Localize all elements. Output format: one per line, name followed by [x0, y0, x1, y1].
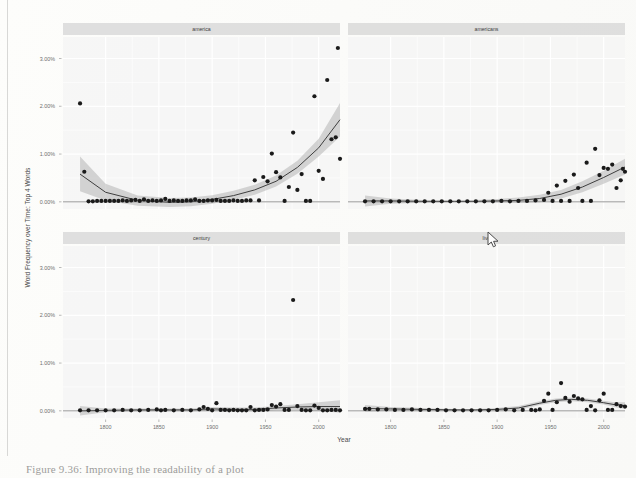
data-point	[104, 199, 108, 203]
data-point	[206, 407, 210, 411]
data-point	[261, 175, 265, 179]
data-point	[300, 172, 304, 176]
data-point	[521, 408, 525, 412]
data-point	[563, 179, 567, 183]
x-tick-label: 1850	[438, 424, 450, 430]
data-point	[219, 408, 223, 412]
data-point	[261, 408, 265, 412]
data-point	[606, 408, 610, 412]
data-point	[163, 197, 167, 201]
data-point	[593, 147, 597, 151]
data-point	[585, 161, 589, 165]
data-point	[623, 404, 627, 408]
y-tick-label: 0.00%	[40, 408, 55, 414]
data-point	[418, 408, 422, 412]
data-point	[121, 198, 125, 202]
data-point	[265, 179, 269, 183]
data-point	[274, 170, 278, 174]
data-point	[291, 130, 295, 134]
data-point	[546, 392, 550, 396]
data-point	[287, 185, 291, 189]
data-point	[329, 137, 333, 141]
data-point	[589, 404, 593, 408]
x-tick-label: 1900	[491, 424, 503, 430]
data-point	[512, 408, 516, 412]
data-point	[602, 166, 606, 170]
data-point	[295, 188, 299, 192]
data-point	[223, 408, 227, 412]
strip-label-americans: americans	[475, 26, 499, 32]
data-point	[478, 408, 482, 412]
data-point	[121, 408, 125, 412]
data-point	[474, 199, 478, 203]
data-point	[308, 408, 312, 412]
x-tick-label: 1950	[259, 424, 271, 430]
data-point	[146, 408, 150, 412]
data-point	[125, 199, 129, 203]
data-point	[414, 199, 418, 203]
data-point	[334, 408, 338, 412]
data-point	[133, 198, 137, 202]
y-tick-label: 1.00%	[40, 360, 55, 366]
x-tick-label: 1900	[206, 424, 218, 430]
data-point	[538, 407, 542, 411]
data-point	[167, 199, 171, 203]
data-point	[240, 408, 244, 412]
x-axis-title: Year	[337, 436, 351, 443]
data-point	[465, 199, 469, 203]
data-point	[112, 199, 116, 203]
x-tick-label: 2000	[313, 424, 325, 430]
data-point	[546, 191, 550, 195]
data-point	[504, 407, 508, 411]
data-point	[317, 406, 321, 410]
data-point	[334, 135, 338, 139]
data-point	[614, 402, 618, 406]
data-point	[146, 199, 150, 203]
mouse-pointer-icon	[487, 231, 501, 249]
data-point	[384, 407, 388, 411]
data-point	[568, 400, 572, 404]
data-point	[257, 198, 261, 202]
data-point	[287, 408, 291, 412]
data-point	[189, 198, 193, 202]
data-point	[206, 198, 210, 202]
data-point	[589, 199, 593, 203]
x-tick-label: 1950	[544, 424, 556, 430]
data-point	[278, 402, 282, 406]
data-point	[270, 403, 274, 407]
data-point	[325, 408, 329, 412]
data-point	[227, 408, 231, 412]
data-point	[150, 198, 154, 202]
data-point	[435, 408, 439, 412]
data-point	[78, 101, 82, 105]
figure-caption: Figure 9.36: Improving the readability o…	[26, 463, 244, 477]
data-point	[231, 408, 235, 412]
data-point	[283, 408, 287, 412]
data-point	[240, 199, 244, 203]
data-point	[180, 199, 184, 203]
data-point	[244, 408, 248, 412]
data-point	[623, 170, 627, 174]
facet-panel-century: century	[63, 232, 342, 418]
data-point	[336, 46, 340, 50]
data-point	[516, 199, 520, 203]
data-point	[338, 157, 342, 161]
data-point	[542, 198, 546, 202]
data-point	[236, 408, 240, 412]
data-point	[585, 408, 589, 412]
y-tick-label: 2.00%	[40, 312, 55, 318]
data-point	[78, 408, 82, 412]
y-tick-label: 2.00%	[40, 103, 55, 109]
data-point	[525, 199, 529, 203]
data-point	[197, 407, 201, 411]
data-point	[329, 408, 333, 412]
data-point	[163, 408, 167, 412]
data-point	[274, 404, 278, 408]
strip-label-america: america	[192, 26, 211, 32]
data-point	[291, 298, 295, 302]
data-point	[202, 405, 206, 409]
data-point	[597, 173, 601, 177]
y-axis-title: Word Frequency over Time: Top 4 Words	[24, 167, 32, 288]
data-point	[580, 199, 584, 203]
data-point	[91, 199, 95, 203]
